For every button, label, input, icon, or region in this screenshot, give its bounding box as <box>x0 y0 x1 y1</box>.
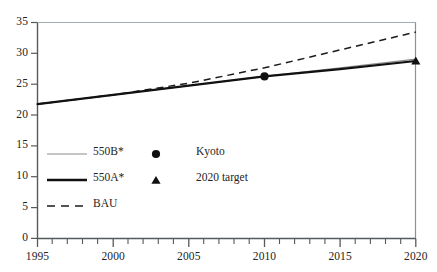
x-axis-major-ticks <box>38 239 416 248</box>
point-kyoto <box>260 72 268 80</box>
legend-label-550b: 550B* <box>93 145 124 157</box>
y-tick-label-10: 10 <box>0 169 28 181</box>
x-tick-label-2015: 2015 <box>320 250 360 262</box>
legend-label-2020-target: 2020 target <box>196 171 248 183</box>
y-tick-label-30: 30 <box>0 46 28 58</box>
y-axis-ticks <box>31 23 38 239</box>
legend-label-550a: 550A* <box>93 171 124 183</box>
legend-swatch-target-triangle-icon <box>150 174 162 186</box>
x-tick-label-1995: 1995 <box>18 250 58 262</box>
x-tick-label-2010: 2010 <box>245 250 285 262</box>
y-tick-label-35: 35 <box>0 15 28 27</box>
chart-figure: 35 30 25 20 15 10 5 0 1995 2000 2005 201… <box>0 0 437 272</box>
legend-label-bau: BAU <box>93 197 117 209</box>
y-tick-label-25: 25 <box>0 77 28 89</box>
y-tick-label-15: 15 <box>0 138 28 150</box>
legend-swatch-550b-line <box>47 152 87 156</box>
plot-area <box>0 0 437 272</box>
legend-swatch-550a-line <box>47 178 87 182</box>
legend-swatch-bau-dashed-line <box>47 204 87 208</box>
series-550a-line <box>38 61 416 104</box>
legend-swatch-kyoto-circle-icon <box>150 148 162 160</box>
y-tick-label-0: 0 <box>0 231 28 243</box>
y-tick-label-20: 20 <box>0 108 28 120</box>
y-tick-label-5: 5 <box>0 200 28 212</box>
x-axis-minor-ticks <box>52 239 401 245</box>
legend-label-kyoto: Kyoto <box>196 145 225 157</box>
x-tick-label-2005: 2005 <box>169 250 209 262</box>
x-tick-label-2020: 2020 <box>396 250 436 262</box>
x-tick-label-2000: 2000 <box>93 250 133 262</box>
